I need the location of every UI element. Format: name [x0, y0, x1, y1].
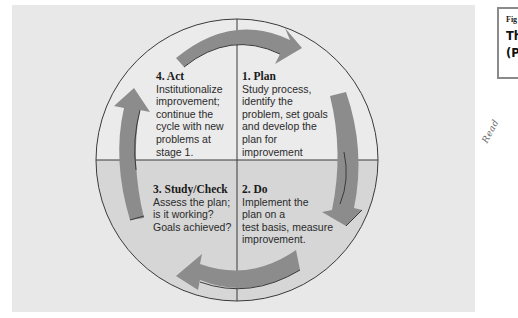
quadrant-plan: 1. Plan Study process, identify the prob… [242, 70, 328, 158]
quadrant-study-check-body: Assess the plan; is it working? Goals ac… [153, 196, 231, 234]
quadrant-do-body: Implement the plan on a test basis, meas… [242, 196, 333, 246]
quadrant-study-check-title: 3. Study/Check [153, 183, 231, 196]
page: 4. Act Institutionalize improvement; con… [0, 0, 518, 318]
quadrant-do-title: 2. Do [242, 183, 333, 196]
quadrant-plan-title: 1. Plan [242, 70, 328, 83]
quadrant-do: 2. Do Implement the plan on a test basis… [242, 183, 333, 246]
figure-label: Fig [506, 15, 518, 24]
figure-caption-box: Fig Th (Pl [497, 7, 518, 79]
quadrant-act: 4. Act Institutionalize improvement; con… [156, 70, 224, 158]
quadrant-plan-body: Study process, identify the problem, set… [242, 83, 328, 159]
quadrant-act-body: Institutionalize improvement; continue t… [156, 83, 224, 159]
pdca-cycle-diagram [0, 0, 518, 318]
figure-title: Th (Pl [506, 28, 518, 62]
quadrant-study-check: 3. Study/Check Assess the plan; is it wo… [153, 183, 231, 233]
quadrant-act-title: 4. Act [156, 70, 224, 83]
